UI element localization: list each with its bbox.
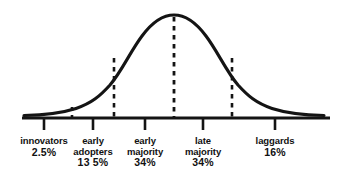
bell-curve-diagram: innovators 2.5% early adopters 13 5% ear… [0, 0, 344, 185]
segment-value: 34% [161, 157, 245, 169]
segment-value: 16% [233, 147, 317, 159]
segment-label-laggards: laggards 16% [233, 136, 317, 158]
